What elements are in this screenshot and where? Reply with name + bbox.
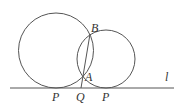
label-point-A: A	[84, 70, 93, 84]
label-tangent-point-right: P	[101, 90, 110, 104]
geometry-diagram: B A Q P P l	[0, 0, 180, 107]
label-point-B: B	[91, 21, 99, 35]
large-circle	[19, 13, 94, 88]
label-line-l: l	[165, 70, 169, 84]
label-point-Q: Q	[76, 90, 85, 104]
label-tangent-point-left: P	[51, 90, 60, 104]
